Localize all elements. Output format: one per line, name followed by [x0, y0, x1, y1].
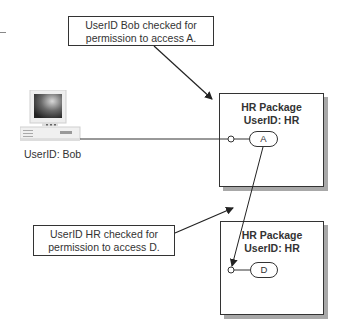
callout-line-2: permission to access D. — [34, 241, 174, 254]
callout-arrow-top — [154, 46, 212, 99]
package-userid: UserID: HR — [221, 242, 323, 255]
desktop-computer-icon — [20, 90, 82, 142]
callout-hr-check-d: UserID HR checked for permission to acce… — [33, 225, 175, 256]
callout-line-1: UserID Bob checked for — [69, 19, 213, 32]
callout-line-2: permission to access A. — [69, 32, 213, 45]
callout-line-1: UserID HR checked for — [34, 228, 174, 241]
component-d[interactable]: D — [250, 262, 278, 278]
computer-label: UserID: Bob — [24, 148, 81, 160]
package-title: HR Package — [221, 229, 323, 242]
package-userid: UserID: HR — [220, 114, 323, 127]
component-a[interactable]: A — [249, 131, 278, 147]
stray-mark — [0, 32, 6, 33]
package-title: HR Package — [220, 101, 323, 114]
callout-bob-check-a: UserID Bob checked for permission to acc… — [68, 16, 214, 46]
